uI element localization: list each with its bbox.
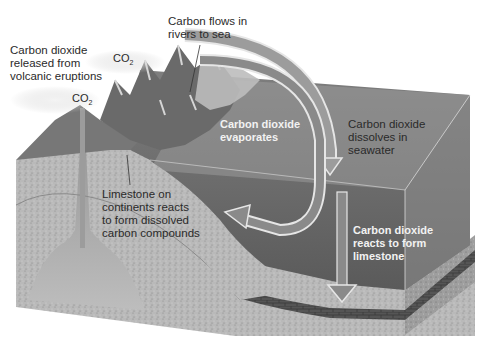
label-rivers: Carbon flows in rivers to sea (168, 15, 247, 41)
co2-base: CO (113, 52, 130, 64)
label-evaporates: Carbon dioxide evaporates (220, 118, 300, 144)
label-dissolves: Carbon dioxide dissolves in seawater (348, 118, 425, 157)
co2-base: CO (72, 92, 89, 104)
co2-tag-lower: CO2 (72, 92, 92, 106)
co2-sub: 2 (89, 99, 93, 106)
co2-sub: 2 (130, 59, 134, 66)
volcano-vent (80, 108, 85, 248)
arrow-reacts (337, 192, 347, 287)
carbon-cycle-diagram: Carbon dioxide released from volcanic er… (0, 0, 483, 357)
label-volcanic: Carbon dioxide released from volcanic er… (10, 44, 102, 83)
co2-tag-upper: CO2 (113, 52, 133, 66)
label-limestone-continents: Limestone on continents reacts to form d… (102, 188, 200, 240)
label-reacts: Carbon dioxide reacts to form limestone (353, 224, 433, 263)
